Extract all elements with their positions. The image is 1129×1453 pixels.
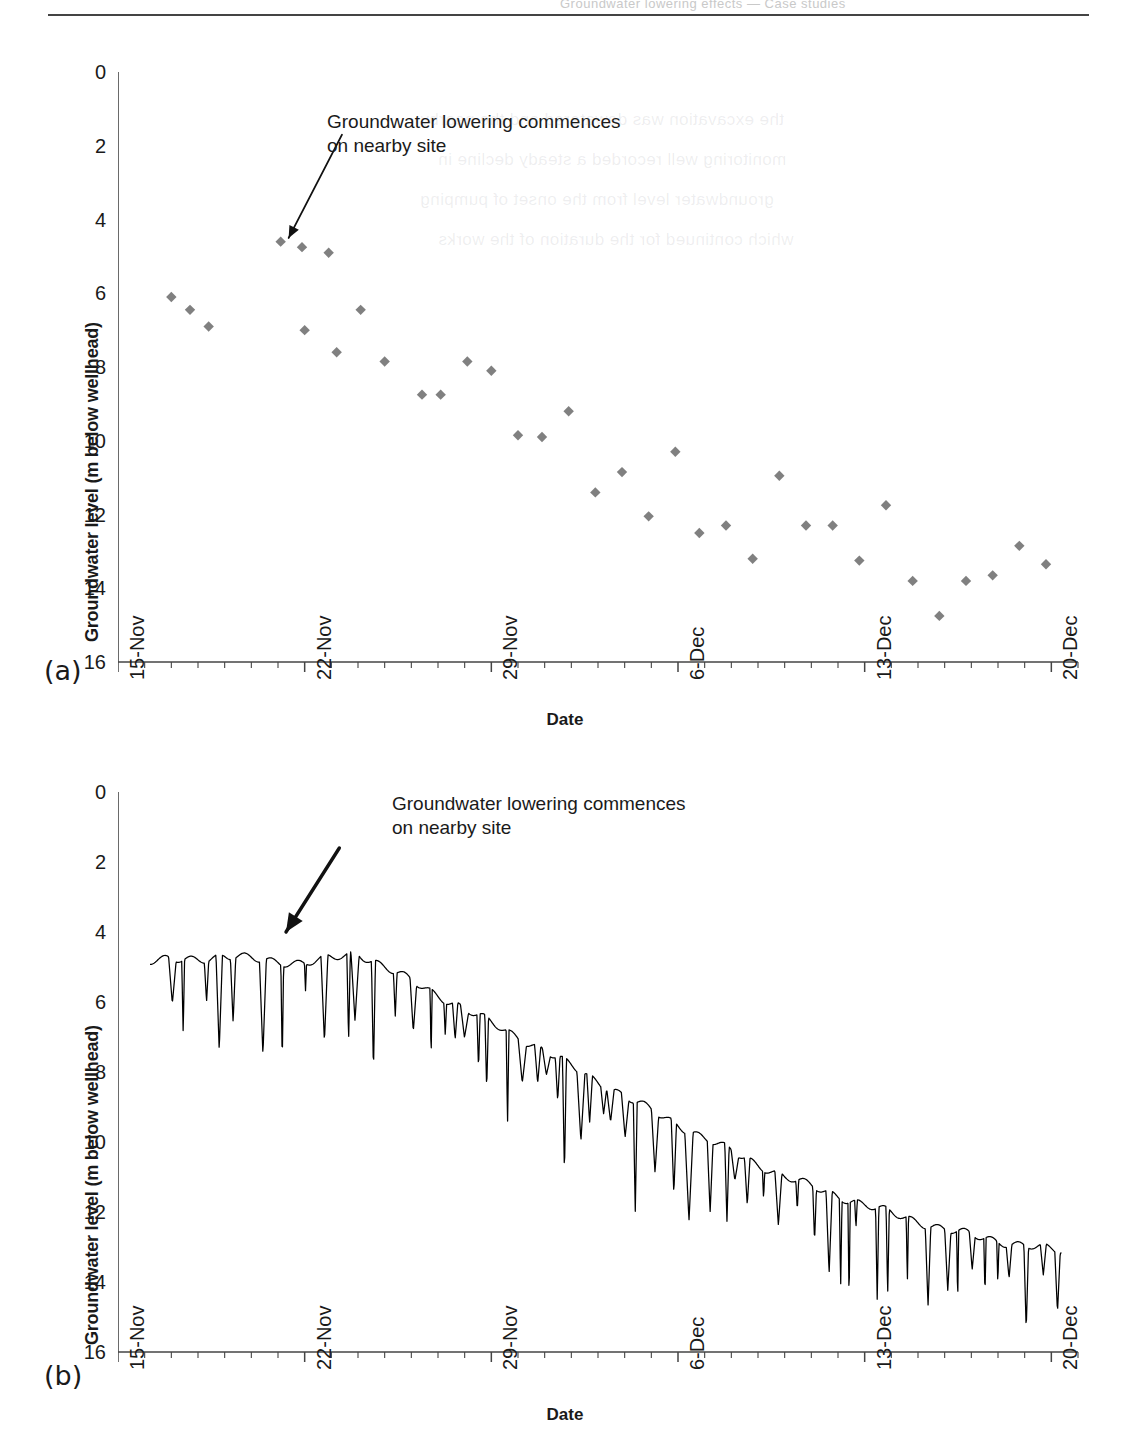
chart-a-plot-area <box>118 72 1088 692</box>
x-tick-label: 15-Nov <box>126 616 149 680</box>
y-tick-label: 6 <box>56 283 106 303</box>
y-tick-label: 16 <box>56 652 106 672</box>
figure-panel-a: (a) Groundwater level (m below wellhead)… <box>0 30 1129 740</box>
x-tick-label: 20-Dec <box>1059 616 1082 680</box>
x-tick-label: 13-Dec <box>873 1306 896 1370</box>
y-tick-label: 2 <box>56 136 106 156</box>
y-tick-label: 0 <box>56 62 106 82</box>
x-tick-label: 6-Dec <box>686 627 709 680</box>
x-tick-label: 22-Nov <box>313 1306 336 1370</box>
chart-b-annotation: Groundwater lowering commences on nearby… <box>392 792 686 841</box>
y-tick-label: 16 <box>56 1342 106 1362</box>
y-tick-label: 10 <box>56 1132 106 1152</box>
annotation-arrow <box>286 848 339 932</box>
y-tick-label: 12 <box>56 1202 106 1222</box>
y-tick-label: 4 <box>56 922 106 942</box>
figure-panel-b: (b) Groundwater level (m below wellhead)… <box>0 760 1129 1450</box>
panel-b-tag: (b) <box>44 1360 82 1391</box>
chart-a-annotation: Groundwater lowering commences on nearby… <box>327 110 621 159</box>
y-tick-label: 14 <box>56 1272 106 1292</box>
x-tick-label: 29-Nov <box>499 1306 522 1370</box>
x-tick-label: 29-Nov <box>499 616 522 680</box>
x-tick-label: 13-Dec <box>873 616 896 680</box>
x-tick-label: 15-Nov <box>126 1306 149 1370</box>
y-tick-label: 6 <box>56 992 106 1012</box>
page-header-rule <box>48 14 1089 16</box>
page-header-text: Groundwater lowering effects — Case stud… <box>560 0 1100 12</box>
scatter-series <box>166 236 1051 621</box>
y-tick-label: 0 <box>56 782 106 802</box>
y-tick-label: 12 <box>56 505 106 525</box>
x-tick-label: 20-Dec <box>1059 1306 1082 1370</box>
x-tick-label: 6-Dec <box>686 1317 709 1370</box>
chart-a-x-axis-title: Date <box>500 710 630 730</box>
y-tick-label: 10 <box>56 431 106 451</box>
y-tick-label: 4 <box>56 210 106 230</box>
y-tick-label: 8 <box>56 1062 106 1082</box>
line-series <box>150 952 1062 1323</box>
y-tick-label: 14 <box>56 578 106 598</box>
y-tick-label: 2 <box>56 852 106 872</box>
y-tick-label: 8 <box>56 357 106 377</box>
x-tick-label: 22-Nov <box>313 616 336 680</box>
chart-b-x-axis-title: Date <box>500 1405 630 1425</box>
chart-b-plot-area <box>118 792 1088 1382</box>
